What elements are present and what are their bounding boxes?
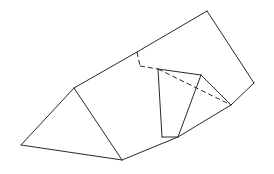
left-triangle-right-edge [74, 88, 122, 160]
pyramid-left-edge [158, 69, 162, 137]
bottom-edge [122, 137, 178, 160]
top-edge [137, 11, 207, 52]
left-triangle-base [21, 145, 122, 160]
folded-shape-diagram [0, 0, 274, 174]
pyramid-top-edge [158, 69, 201, 75]
pyramid-right-edge [201, 75, 231, 105]
right-lower-edge [231, 83, 254, 105]
ridge-edge [74, 52, 137, 88]
hidden-vertical-edge [137, 52, 140, 66]
pyramid-lower-edge [178, 105, 231, 137]
hidden-horizontal-edge [140, 66, 158, 69]
right-edge [207, 11, 254, 83]
left-triangle-left-edge [21, 88, 74, 145]
